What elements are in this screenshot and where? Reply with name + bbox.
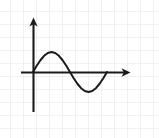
grid-lines bbox=[0, 0, 159, 138]
sine-wave-figure bbox=[0, 0, 159, 138]
plot-canvas bbox=[0, 0, 159, 138]
